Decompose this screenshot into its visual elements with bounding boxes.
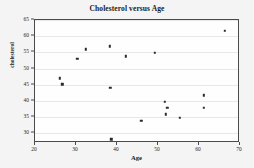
gridline	[35, 36, 238, 37]
scatter-point	[203, 107, 205, 109]
scatter-point	[76, 58, 78, 60]
y-tick-mark	[31, 83, 34, 84]
scatter-point	[109, 86, 111, 88]
scatter-point	[224, 29, 226, 31]
x-axis-label: Age	[34, 154, 239, 161]
plot-area	[34, 19, 239, 142]
x-tick-mark	[198, 142, 199, 145]
scatter-point	[125, 55, 127, 57]
y-axis-label: cholesterol	[9, 25, 15, 85]
gridline	[35, 20, 238, 21]
y-tick-mark	[31, 132, 34, 133]
y-tick-mark	[31, 99, 34, 100]
y-tick-label: 40	[7, 97, 29, 103]
x-tick-label: 50	[145, 146, 169, 152]
x-tick-label: 20	[22, 146, 46, 152]
x-tick-mark	[157, 142, 158, 145]
y-tick-label: 65	[7, 16, 29, 22]
gridline	[35, 117, 238, 118]
scatter-point	[166, 107, 168, 109]
scatter-point	[110, 138, 112, 140]
chart-figure: Cholesterol versus Age 3035404550556065 …	[0, 0, 254, 168]
scatter-point	[140, 119, 142, 121]
chart-title: Cholesterol versus Age	[0, 4, 254, 13]
x-tick-mark	[116, 142, 117, 145]
x-tick-mark	[34, 142, 35, 145]
scatter-point	[202, 94, 204, 96]
y-tick-label: 30	[7, 129, 29, 135]
gridline	[35, 101, 238, 102]
gridline	[35, 85, 238, 86]
y-tick-mark	[31, 67, 34, 68]
y-tick-mark	[31, 51, 34, 52]
gridline	[35, 69, 238, 70]
scatter-point	[165, 113, 167, 115]
gridline	[35, 52, 238, 53]
x-tick-label: 60	[186, 146, 210, 152]
x-tick-label: 70	[227, 146, 251, 152]
y-tick-mark	[31, 19, 34, 20]
y-tick-mark	[31, 35, 34, 36]
scatter-point	[108, 45, 110, 47]
y-tick-label: 35	[7, 113, 29, 119]
x-tick-label: 30	[63, 146, 87, 152]
x-tick-mark	[239, 142, 240, 145]
x-tick-label: 40	[104, 146, 128, 152]
x-tick-mark	[75, 142, 76, 145]
scatter-point	[85, 48, 87, 50]
y-tick-mark	[31, 116, 34, 117]
gridline	[35, 133, 238, 134]
scatter-point	[58, 77, 60, 79]
